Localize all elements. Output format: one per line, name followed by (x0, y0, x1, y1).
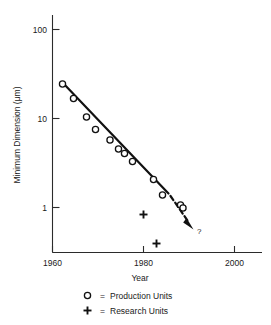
research-units-series (140, 211, 161, 248)
data-point-circle (70, 95, 76, 101)
x-tick-label-2000: 2000 (225, 258, 244, 268)
data-point-circle (150, 176, 156, 182)
x-axis-tick-labels: 1960 1980 2000 (43, 258, 244, 268)
legend-entry-production-units: = Production Units (84, 291, 172, 301)
minimum-dimension-vs-year-chart: 100 10 1 1960 1980 2000 Minimum Dimensio… (0, 0, 271, 325)
x-tick-label-1980: 1980 (134, 258, 153, 268)
legend-label-research-units: Research Units (110, 306, 168, 316)
legend-separator: = (100, 291, 105, 301)
legend-separator: = (100, 306, 105, 316)
question-mark-annotation: ? (197, 227, 202, 236)
y-axis-tick-labels: 100 10 1 (33, 25, 47, 213)
chart-figure: 100 10 1 1960 1980 2000 Minimum Dimensio… (0, 0, 271, 325)
data-point-circle (59, 81, 65, 87)
data-point-plus (140, 211, 148, 219)
extrapolation-arrowhead (183, 218, 193, 229)
legend-plus-icon (84, 307, 92, 315)
y-axis-title: Minimum Dimension (μm) (12, 86, 22, 183)
x-tick-label-1960: 1960 (43, 258, 62, 268)
legend-label-production-units: Production Units (110, 291, 172, 301)
chart-legend: = Production Units = Research Units (84, 291, 173, 316)
data-point-circle (115, 146, 121, 152)
x-axis-title: Year (131, 273, 148, 283)
legend-circle-icon (84, 292, 90, 298)
data-point-circle (92, 126, 98, 132)
y-axis-ticks (53, 30, 60, 208)
legend-entry-research-units: = Research Units (84, 306, 169, 316)
y-tick-label-100: 100 (33, 25, 47, 35)
y-tick-label-10: 10 (38, 114, 48, 124)
x-axis-ticks (53, 246, 235, 253)
axis-lines (53, 15, 263, 253)
data-point-circle (83, 114, 89, 120)
data-point-circle (129, 158, 135, 164)
data-point-circle (107, 137, 113, 143)
data-point-circle (180, 205, 186, 211)
data-point-circle (121, 150, 127, 156)
y-tick-label-1: 1 (42, 203, 47, 213)
data-point-circle (159, 192, 165, 198)
data-point-plus (153, 240, 161, 248)
